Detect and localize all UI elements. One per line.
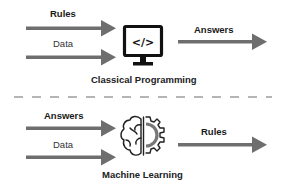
label-rules-output: Rules: [201, 126, 227, 137]
arrow-rules-input: [26, 20, 116, 37]
monitor-code-icon: </>: [125, 27, 162, 66]
caption-machine-learning: Machine Learning: [102, 169, 183, 180]
label-data-input-ml: Data: [53, 139, 73, 150]
arrow-answers-output: [178, 34, 267, 51]
gear-accent-arc: [146, 124, 157, 146]
label-rules-input: Rules: [50, 8, 76, 19]
diagram-canvas: </>: [0, 0, 284, 189]
arrow-data-input-ml: [26, 149, 116, 166]
label-answers-input: Answers: [44, 110, 84, 121]
arrow-data-input: [26, 49, 116, 66]
label-data-input: Data: [53, 38, 73, 49]
caption-classical-programming: Classical Programming: [91, 74, 197, 85]
arrow-rules-output: [178, 137, 267, 154]
arrow-answers-input: [26, 120, 116, 137]
label-answers-output: Answers: [194, 24, 234, 35]
svg-text:</>: </>: [132, 36, 154, 49]
